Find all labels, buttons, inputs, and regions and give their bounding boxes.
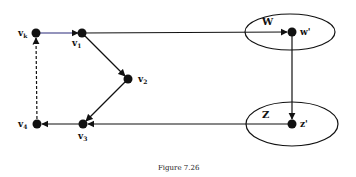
label-region-w: W [261, 16, 274, 27]
edge-v4-vk-dashed [36, 38, 37, 124]
label-v3: v3 [77, 131, 87, 142]
graph-diagram: vk v1 v2 v3 v4 W w' Z z' Figure 7.26 [0, 0, 356, 177]
node-w-prime [288, 28, 297, 37]
node-v4 [33, 120, 42, 129]
label-v1: v1 [71, 38, 81, 49]
edge-v1-v2 [82, 33, 125, 76]
label-v4: v4 [17, 119, 27, 130]
node-z-prime [288, 120, 297, 129]
label-vk: vk [17, 28, 28, 39]
edge-v2-v3 [86, 79, 128, 121]
node-v3 [79, 120, 88, 129]
node-vk [32, 29, 41, 38]
edge-v1-w [82, 32, 287, 33]
node-v2 [124, 75, 133, 84]
label-w-prime: w' [299, 27, 311, 37]
label-v2: v2 [137, 74, 147, 85]
label-z-prime: z' [300, 119, 308, 129]
label-region-z: Z [262, 109, 269, 120]
figure-caption: Figure 7.26 [158, 164, 200, 172]
node-v1 [78, 29, 87, 38]
